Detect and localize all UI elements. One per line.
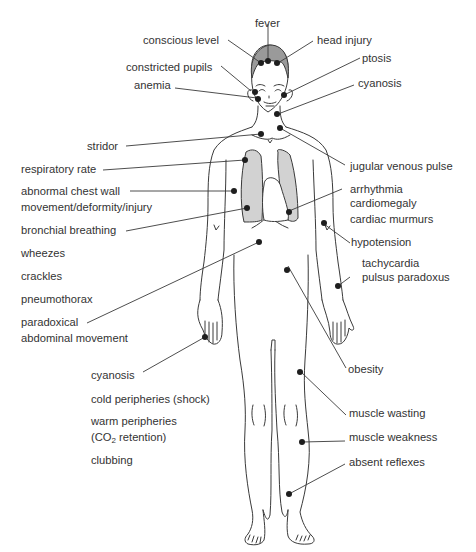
dot-bronchial — [244, 205, 250, 211]
label-anemia: anemia — [134, 78, 171, 92]
co2-suffix: retention) — [116, 431, 166, 443]
dot-jvp — [277, 125, 283, 131]
label-paradoxical-2: abdominal movement — [21, 331, 128, 345]
dot-abdomen — [256, 239, 262, 245]
label-conscious-level: conscious level — [143, 33, 219, 47]
dot-conscious-level — [258, 60, 264, 66]
dot-hand-cyanosis — [202, 334, 208, 340]
label-tachycardia: tachycardia — [362, 256, 419, 270]
label-cyanosis-face: cyanosis — [358, 76, 402, 90]
label-pulsus-paradoxus: pulsus paradoxus — [362, 270, 450, 284]
dot-heart — [286, 209, 292, 215]
dot-respiratory-rate — [242, 157, 248, 163]
label-ptosis: ptosis — [362, 51, 391, 65]
dot-head-injury — [274, 60, 280, 66]
body-outline — [198, 45, 354, 545]
label-hypotension: hypotension — [351, 235, 411, 249]
label-paradoxical-1: paradoxical — [21, 315, 78, 329]
dot-fever — [265, 58, 271, 64]
label-fever: fever — [255, 16, 280, 30]
dot-anemia — [255, 96, 261, 102]
label-warm-peripheries-2: (CO2 retention) — [91, 430, 166, 444]
label-pneumothorax: pneumothorax — [21, 292, 93, 306]
label-muscle-weakness: muscle weakness — [349, 430, 437, 444]
dot-muscle-weakness — [299, 439, 305, 445]
label-cold-peripheries: cold peripheries (shock) — [91, 392, 210, 406]
dot-absent-reflexes — [286, 491, 292, 497]
dot-wrist — [335, 283, 341, 289]
label-warm-peripheries-1: warm peripheries — [91, 414, 177, 428]
dot-constricted-pupils — [252, 89, 258, 95]
dot-chest-wall — [231, 188, 237, 194]
label-wheezes: wheezes — [21, 246, 65, 260]
label-head-injury: head injury — [317, 33, 372, 47]
label-crackles: crackles — [21, 269, 62, 283]
label-muscle-wasting: muscle wasting — [349, 406, 425, 420]
label-cyanosis-hand: cyanosis — [91, 368, 135, 382]
label-cardiomegaly: cardiomegaly — [350, 196, 417, 210]
label-constricted-pupils: constricted pupils — [126, 60, 212, 74]
dot-obesity — [284, 267, 290, 273]
dot-stridor — [258, 131, 264, 137]
label-bronchial-breathing: bronchial breathing — [21, 223, 116, 237]
dot-ptosis — [281, 92, 287, 98]
label-stridor: stridor — [87, 139, 118, 153]
label-clubbing: clubbing — [91, 453, 133, 467]
label-cardiac-murmurs: cardiac murmurs — [350, 212, 433, 226]
label-obesity: obesity — [348, 362, 383, 376]
label-arrhythmia: arrhythmia — [350, 182, 403, 196]
dot-hypotension — [321, 220, 327, 226]
label-absent-reflexes: absent reflexes — [349, 455, 425, 469]
label-jugular-venous-pulse: jugular venous pulse — [350, 159, 453, 173]
dot-cyanosis-lip — [274, 111, 280, 117]
label-abnormal-chest-wall-2: movement/deformity/injury — [21, 200, 152, 214]
co2-prefix: (CO — [91, 431, 112, 443]
dot-muscle-wasting — [297, 369, 303, 375]
label-respiratory-rate: respiratory rate — [21, 162, 96, 176]
label-abnormal-chest-wall-1: abnormal chest wall — [21, 184, 120, 198]
